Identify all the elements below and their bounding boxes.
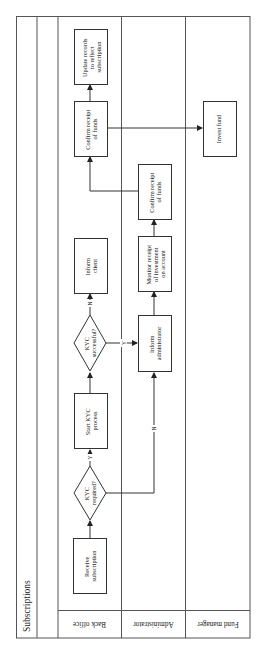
node-kyc-required-decision: KYC required?: [74, 466, 106, 520]
node-receive-subscription: Receive subscription: [74, 539, 107, 594]
edge-label-kyc-successful-yes: Y: [121, 341, 127, 345]
node-confirm-receipt-back-office: Confirm receipt of funds: [75, 102, 108, 157]
node-kyc-successful-decision: KYC successful?: [74, 315, 106, 371]
edge-kyc-required-no: [106, 373, 154, 493]
edge-label-kyc-successful-no: N: [87, 301, 93, 305]
node-start-kyc-process: Start KYC process: [75, 394, 108, 449]
edge-confirm-admin-to-confirm-bo: [90, 157, 138, 191]
svg-text:Inform client: Inform client: [84, 256, 98, 275]
svg-text:Invest fund: Invest fund: [215, 114, 222, 143]
node-inform-client: Inform client: [75, 239, 108, 294]
swimlane-diagram: Subscriptions Back office Administrator …: [0, 0, 262, 645]
diagram-title: Subscriptions: [22, 580, 32, 632]
edge-label-kyc-required-yes: Y: [87, 455, 93, 459]
lane-label-administrator: Administrator: [133, 620, 174, 628]
node-monitor-receipt: Monitor receipt of investment on account: [139, 237, 172, 292]
lane-label-back-office: Back office: [73, 620, 106, 628]
node-inform-administrator: Inform administrator: [139, 316, 172, 372]
node-confirm-receipt-administrator: Confirm receipt of funds: [139, 165, 172, 220]
edge-label-kyc-required-no: N: [151, 426, 157, 430]
node-update-records: Update records to reflect subscription: [75, 30, 108, 85]
lane-label-fund-manager: Fund manager: [197, 620, 239, 628]
node-invest-fund: Invest fund: [204, 102, 237, 157]
